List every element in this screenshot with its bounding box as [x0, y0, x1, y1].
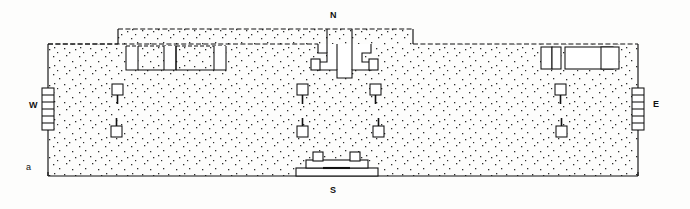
east-stair-structure	[632, 88, 644, 130]
west-stair-structure	[42, 88, 54, 130]
archaeological-site-plan: N S W E a	[0, 0, 690, 209]
cardinal-label-west: W	[29, 101, 38, 110]
cardinal-label-north: N	[330, 11, 337, 20]
plan-drawing	[0, 0, 690, 209]
northeast-chambers	[541, 47, 619, 69]
cardinal-label-east: E	[653, 100, 659, 109]
figure-key-label: a	[26, 163, 31, 172]
cardinal-label-south: S	[330, 186, 336, 195]
